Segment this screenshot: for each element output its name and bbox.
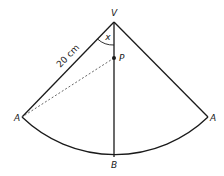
label-angle-x: x <box>104 32 111 42</box>
sector-diagram: V x P A A B 20 cm <box>0 0 224 176</box>
point-p-dot <box>112 56 116 60</box>
label-p: P <box>119 53 125 63</box>
label-a-left: A <box>13 113 20 123</box>
arc-ab-a <box>22 117 208 155</box>
label-b: B <box>111 160 117 170</box>
dashed-line-pa <box>22 58 114 117</box>
label-v: V <box>111 8 118 18</box>
radius-va-left <box>22 22 114 117</box>
radius-va-right <box>114 22 208 117</box>
label-a-right: A <box>209 113 216 123</box>
label-side-length: 20 cm <box>55 42 82 69</box>
